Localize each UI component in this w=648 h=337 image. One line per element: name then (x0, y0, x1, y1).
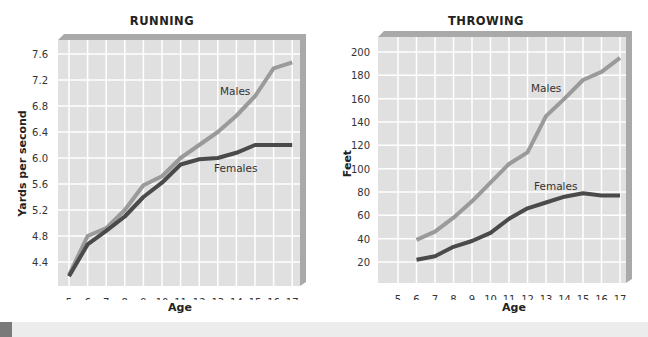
females-label: Females (534, 180, 577, 192)
x-tick-label: 14 (558, 294, 571, 300)
x-tick-label: 15 (249, 297, 262, 300)
y-tick-label: 4.4 (32, 257, 48, 268)
bottom-marker (0, 322, 12, 337)
x-tick-label: 5 (66, 297, 72, 300)
y-tick-label: 40 (357, 234, 370, 245)
males-label: Males (531, 82, 561, 94)
y-tick-label: 200 (351, 47, 370, 58)
x-tick-label: 7 (432, 294, 438, 300)
x-tick-label: 10 (484, 294, 497, 300)
y-tick-label: 120 (351, 140, 370, 151)
throwing-x-axis-label: Age (502, 301, 526, 314)
plot-area (378, 37, 626, 283)
x-tick-label: 7 (103, 297, 109, 300)
throwing-chart: THROWING Feet Age 2040608010012014016018… (324, 0, 648, 322)
x-tick-label: 17 (286, 297, 299, 300)
x-tick-label: 12 (193, 297, 206, 300)
females-label: Females (214, 162, 257, 174)
x-tick-label: 9 (469, 294, 475, 300)
x-tick-label: 9 (140, 297, 146, 300)
y-tick-label: 7.6 (32, 49, 48, 60)
x-tick-label: 5 (395, 294, 401, 300)
x-tick-label: 8 (122, 297, 128, 300)
x-tick-label: 11 (503, 294, 516, 300)
x-tick-label: 13 (540, 294, 553, 300)
y-tick-label: 80 (357, 187, 370, 198)
x-tick-label: 10 (156, 297, 169, 300)
y-tick-label: 4.8 (32, 231, 48, 242)
y-tick-label: 60 (357, 210, 370, 221)
running-plot: 4.44.85.25.66.06.46.87.27.65678910111213… (0, 0, 324, 300)
y-tick-label: 5.6 (32, 179, 48, 190)
y-tick-label: 5.2 (32, 205, 48, 216)
x-tick-label: 8 (450, 294, 456, 300)
x-tick-label: 17 (614, 294, 627, 300)
y-tick-label: 6.0 (32, 153, 48, 164)
x-tick-label: 6 (84, 297, 90, 300)
x-tick-label: 11 (174, 297, 187, 300)
y-tick-label: 20 (357, 257, 370, 268)
x-tick-label: 16 (595, 294, 608, 300)
y-tick-label: 180 (351, 70, 370, 81)
x-tick-label: 16 (267, 297, 280, 300)
running-chart: RUNNING Yards per second Age 4.44.85.25.… (0, 0, 324, 322)
males-label: Males (220, 85, 250, 97)
y-tick-label: 7.2 (32, 75, 48, 86)
x-tick-label: 12 (521, 294, 534, 300)
x-tick-label: 14 (230, 297, 243, 300)
throwing-plot: 2040608010012014016018020056789101112131… (324, 0, 648, 300)
y-tick-label: 6.4 (32, 127, 48, 138)
y-tick-label: 100 (351, 164, 370, 175)
y-tick-label: 160 (351, 94, 370, 105)
x-tick-label: 15 (577, 294, 590, 300)
y-tick-label: 6.8 (32, 101, 48, 112)
plot-area (58, 40, 300, 286)
x-tick-label: 13 (211, 297, 224, 300)
bottom-strip (0, 322, 648, 337)
x-tick-label: 6 (413, 294, 419, 300)
y-tick-label: 140 (351, 117, 370, 128)
running-x-axis-label: Age (168, 301, 192, 314)
